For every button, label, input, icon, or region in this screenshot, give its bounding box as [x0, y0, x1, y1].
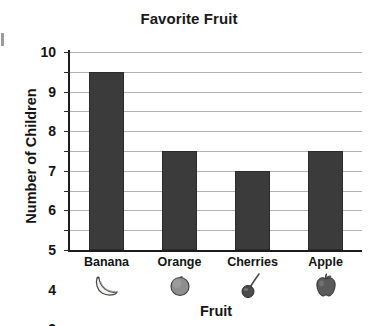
orange-icon	[169, 275, 191, 297]
y-axis-tick-mark: 10	[64, 52, 70, 53]
banana-icon	[92, 275, 122, 297]
x-axis-line	[68, 250, 362, 252]
y-axis-tick-label: 5	[48, 243, 56, 257]
y-axis-tick-mark: 2	[64, 210, 70, 211]
y-axis-tick-mark: 8	[64, 92, 70, 93]
y-axis-tick-label: 3	[48, 322, 56, 326]
y-axis-tick-mark: 9	[64, 72, 70, 73]
category-cherries: Cherries	[216, 255, 289, 299]
y-axis-tick-mark: 7	[64, 111, 70, 112]
y-axis-tick-mark: 4	[64, 171, 70, 172]
x-axis-title: Fruit	[70, 303, 362, 319]
plot-area: 012345678910	[70, 52, 362, 250]
x-axis-tick-label: Orange	[143, 255, 216, 269]
bar-orange	[162, 151, 197, 250]
y-axis-tick-label: 4	[48, 283, 56, 297]
y-axis-tick-label: 8	[48, 124, 56, 138]
bar-cherries	[235, 171, 270, 250]
y-axis-tick-mark: 5	[64, 151, 70, 152]
y-axis-tick-mark: 6	[64, 131, 70, 132]
y-axis-tick-mark: 3	[64, 191, 70, 192]
y-axis-tick-label: 10	[40, 45, 56, 59]
bar-banana	[89, 72, 124, 250]
category-banana: Banana	[70, 255, 143, 299]
y-axis-tick-mark: 0	[64, 250, 70, 251]
y-axis-tick-label: 6	[48, 203, 56, 217]
chart-page: Favorite Fruit Number of Children 012345…	[0, 0, 378, 326]
apple-icon	[289, 273, 362, 299]
x-axis-tick-label: Cherries	[216, 255, 289, 269]
gridline	[70, 52, 362, 53]
x-axis-tick-label: Apple	[289, 255, 362, 269]
orange-icon	[143, 273, 216, 299]
category-apple: Apple	[289, 255, 362, 299]
cherries-icon	[216, 273, 289, 299]
cherries-icon	[240, 272, 266, 300]
bar-apple	[308, 151, 343, 250]
y-axis-tick-label: 9	[48, 85, 56, 99]
y-axis-title: Number of Children	[23, 66, 39, 246]
x-axis-tick-label: Banana	[70, 255, 143, 269]
page-edge-artifact	[1, 33, 4, 46]
chart-title: Favorite Fruit	[0, 10, 378, 27]
category-orange: Orange	[143, 255, 216, 299]
banana-icon	[70, 273, 143, 299]
y-axis-tick-mark: 1	[64, 230, 70, 231]
apple-icon	[314, 273, 338, 299]
y-axis-tick-label: 7	[48, 164, 56, 178]
